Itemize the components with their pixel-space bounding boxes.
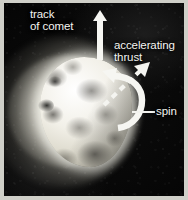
comet-figure: track of comet accelerating thrust spin xyxy=(0,0,188,200)
spin-arrow-icon xyxy=(96,63,146,135)
track-of-comet-arrow-icon xyxy=(92,10,108,60)
spin-leader-line xyxy=(132,111,155,113)
arrow-shaft xyxy=(97,19,103,60)
track-of-comet-label: track of comet xyxy=(30,9,73,32)
nucleus-dark-notch xyxy=(38,99,54,112)
thrust-label-line2: thrust xyxy=(114,52,175,64)
track-label-line2: of comet xyxy=(30,21,73,33)
nucleus-dark-crater xyxy=(48,76,62,87)
comet-photo: track of comet accelerating thrust spin xyxy=(4,3,184,196)
accelerating-thrust-label: accelerating thrust xyxy=(114,40,175,63)
spin-label: spin xyxy=(156,106,177,118)
thrust-label-line1: accelerating xyxy=(114,40,175,52)
track-label-line1: track xyxy=(30,9,73,21)
